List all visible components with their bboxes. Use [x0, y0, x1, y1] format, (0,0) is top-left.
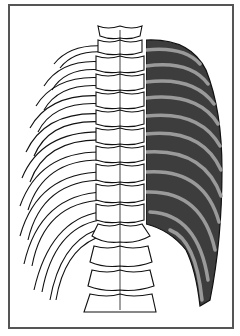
ribcage-illustration	[0, 0, 240, 336]
intercostal-muscles	[146, 40, 222, 306]
